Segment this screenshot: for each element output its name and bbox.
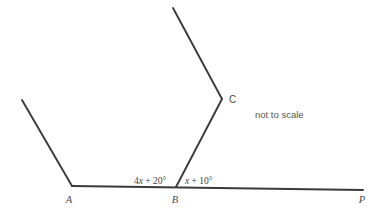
vertex-label-b: B (172, 194, 179, 205)
vertex-label-p: P (358, 194, 366, 205)
angle-label-cbp: x + 10° (184, 176, 213, 186)
vertex-label-a: A (65, 194, 73, 205)
segment-b-to-c (176, 99, 222, 187)
ray-from-a-upper-left (22, 100, 72, 186)
angle-abc-constant: + 20° (143, 176, 167, 186)
geometry-diagram: A B C P 4x + 20° x + 10° not to scale (0, 0, 375, 212)
not-to-scale-note: not to scale (255, 109, 304, 120)
baseline-a-to-p (72, 186, 363, 190)
angle-cbp-constant: + 10° (189, 176, 213, 186)
angle-label-abc: 4x + 20° (134, 176, 167, 186)
ray-from-c-upper-left (173, 8, 222, 99)
vertex-label-c: C (229, 94, 236, 105)
